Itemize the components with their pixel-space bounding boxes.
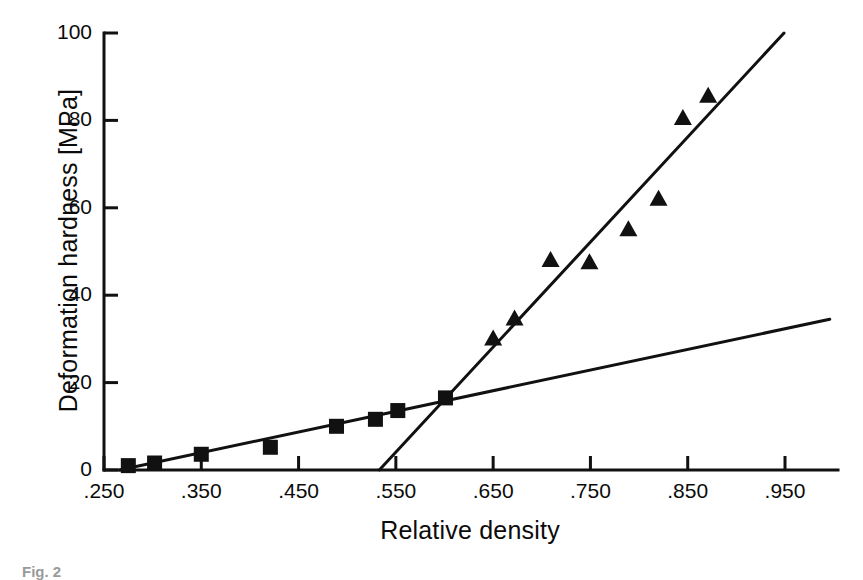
square-marker (147, 456, 162, 471)
triangle-marker (699, 87, 717, 103)
x-tick-label: .550 (357, 479, 435, 503)
square-marker (368, 412, 383, 427)
axis-spines (104, 33, 838, 470)
x-tick-label: .450 (260, 479, 338, 503)
triangle-marker (619, 220, 637, 236)
data-markers-group (121, 87, 717, 473)
y-tick-label: 60 (30, 195, 92, 219)
x-axis-title: Relative density (180, 516, 760, 545)
fit-lines-group (120, 33, 830, 470)
x-tick-label: .750 (551, 479, 629, 503)
figure-caption: Fig. 2 (22, 563, 61, 580)
square-marker (390, 403, 405, 418)
triangle-series-markers (484, 87, 717, 346)
square-marker (263, 440, 278, 455)
x-tick-label: .850 (649, 479, 727, 503)
square-marker (121, 458, 136, 473)
x-tick-label: .650 (454, 479, 532, 503)
triangle-marker (542, 251, 560, 267)
x-tick-label: .250 (65, 479, 143, 503)
y-tick-label: 20 (30, 370, 92, 394)
y-tick-label: 40 (30, 282, 92, 306)
triangle-marker (580, 253, 598, 269)
y-tick-label: 100 (30, 20, 92, 44)
shallow-fit-line (120, 319, 830, 470)
triangle-marker (484, 330, 502, 346)
square-marker (194, 447, 209, 462)
x-tick-label: .350 (162, 479, 240, 503)
square-marker (329, 419, 344, 434)
y-axis-title: Deformation hardness [MPa] (54, 41, 83, 461)
y-tick-label: 80 (30, 107, 92, 131)
square-marker (438, 390, 453, 405)
x-tick-label: .950 (746, 479, 824, 503)
y-axis-tick-marks (104, 33, 118, 470)
y-tick-label: 0 (30, 457, 92, 481)
triangle-marker (674, 109, 692, 125)
square-series-markers (121, 390, 453, 473)
triangle-marker (650, 190, 668, 206)
